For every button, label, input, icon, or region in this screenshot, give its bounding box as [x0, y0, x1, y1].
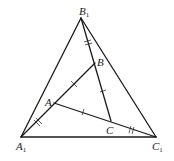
double-tick-cc1	[129, 126, 134, 134]
segment-b1-c1	[81, 18, 156, 137]
label-b1: B1	[79, 5, 90, 19]
segment-a1-b	[21, 63, 95, 137]
label-b: B	[97, 56, 104, 68]
label-a1: A1	[15, 140, 27, 154]
label-c1: C1	[152, 140, 163, 154]
segment-a-c1	[54, 103, 156, 137]
segment-b1-c	[81, 18, 111, 121]
label-a: A	[44, 96, 52, 108]
geometry-figure: B1 B A C A1 C1	[0, 0, 174, 161]
label-c: C	[106, 124, 114, 136]
segment-a1-b1	[21, 18, 81, 137]
